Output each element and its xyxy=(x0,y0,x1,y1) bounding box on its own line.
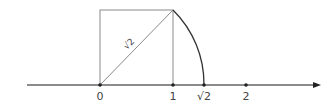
tick-label-2: 2 xyxy=(243,90,250,103)
point-2 xyxy=(244,83,248,87)
tick-label-1: 1 xyxy=(170,90,177,103)
tick-label-0: 0 xyxy=(97,90,104,103)
point-0 xyxy=(98,83,102,87)
tick-label-sqrt2: √2 xyxy=(197,90,211,103)
point-1 xyxy=(171,83,175,87)
point-sqrt2 xyxy=(202,83,206,87)
sqrt2-number-line-diagram: 0 1 √2 2 √2 xyxy=(0,0,336,106)
square-diagonal xyxy=(100,10,173,85)
axis-arrow-icon xyxy=(313,82,321,88)
compass-arc xyxy=(173,10,204,85)
